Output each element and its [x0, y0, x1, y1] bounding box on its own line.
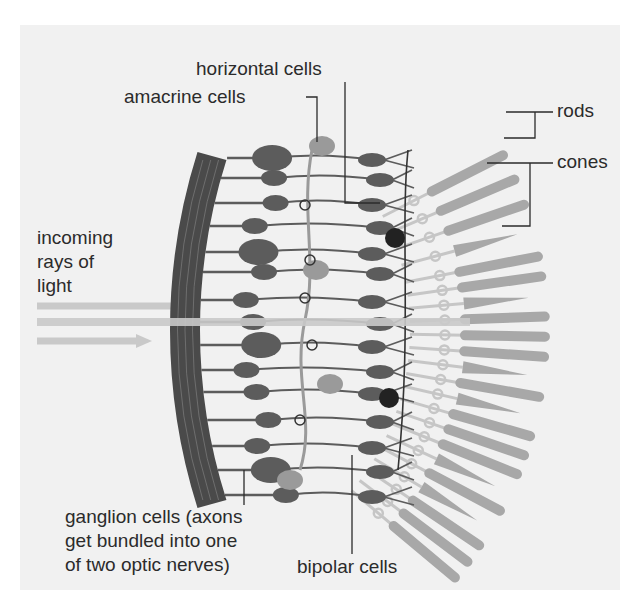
amacrine-cell: [277, 470, 303, 490]
bipolar-dendrite: [384, 150, 414, 168]
bipolar-cell: [366, 365, 394, 379]
label-ganglion-line2: get bundled into one: [65, 529, 242, 553]
label-horizontal-cells: horizontal cells: [196, 57, 322, 81]
leader-amacrine-cells: [306, 97, 317, 142]
ganglion-cell: [261, 170, 287, 186]
bipolar-dendrite: [392, 170, 414, 188]
amacrine-process: [300, 150, 312, 470]
cone-cell: [408, 360, 527, 375]
synapse-fiber: [256, 389, 372, 394]
rod-cell: [409, 345, 544, 356]
ganglion-cell: [255, 412, 281, 428]
synapse-fiber: [246, 367, 380, 372]
ganglion-cell: [252, 145, 292, 171]
bipolar-cell: [358, 340, 386, 354]
leader-rods: [504, 112, 553, 138]
ganglion-cell: [233, 362, 259, 378]
retina-wall: [170, 152, 226, 508]
horizontal-cell: [379, 388, 399, 408]
bipolar-cell: [366, 267, 394, 281]
ganglion-cell: [238, 239, 278, 265]
label-incoming-light: incoming rays of light: [37, 226, 113, 298]
synapse-fiber: [257, 443, 372, 448]
label-rods: rods: [557, 99, 594, 123]
synapse-fiber: [274, 175, 380, 180]
synapse-ring: [295, 415, 305, 425]
bipolar-dendrite: [392, 362, 414, 380]
amacrine-cell: [309, 136, 335, 156]
ganglion-cell: [263, 195, 289, 211]
bipolar-cell: [358, 295, 386, 309]
light-ray: [37, 338, 138, 345]
arrowhead-icon: [136, 334, 152, 348]
label-bipolar-cells: bipolar cells: [297, 555, 397, 579]
bipolar-cell: [358, 153, 386, 167]
rod-cell: [406, 373, 539, 396]
bipolar-cell: [366, 415, 394, 429]
cone-cell: [409, 297, 529, 309]
light-ray: [37, 303, 181, 310]
horizontal-cell: [385, 228, 405, 248]
label-ganglion-line1: ganglion cells (axons: [65, 505, 242, 529]
label-ganglion-line3: of two optic nerves): [65, 553, 242, 577]
central-light-ray: [37, 318, 470, 326]
ganglion-cell: [251, 264, 277, 280]
label-incoming-light-line3: light: [37, 274, 113, 298]
ganglion-cell: [244, 438, 270, 454]
bipolar-cell: [358, 441, 386, 455]
ganglion-cell: [241, 332, 281, 358]
label-ganglion-cells: ganglion cells (axons get bundled into o…: [65, 505, 242, 577]
synapse-fiber: [268, 417, 380, 422]
bipolar-cell: [358, 198, 386, 212]
rod-cell: [410, 330, 545, 339]
ganglion-cell: [242, 218, 268, 234]
label-incoming-light-line1: incoming: [37, 226, 113, 250]
amacrine-cell: [317, 374, 343, 394]
bipolar-dendrite: [392, 264, 414, 282]
synapse-fiber: [255, 223, 380, 228]
bipolar-cell: [366, 465, 394, 479]
light-ray: [37, 318, 470, 326]
bipolar-cell: [366, 173, 394, 187]
ganglion-cell: [233, 292, 259, 308]
label-amacrine-cells: amacrine cells: [124, 85, 245, 109]
label-incoming-light-line2: rays of: [37, 250, 113, 274]
retina-wall-band: [170, 152, 226, 508]
ganglion-cell: [243, 384, 269, 400]
bipolar-cell: [358, 247, 386, 261]
bipolar-cell: [358, 490, 386, 504]
label-cones: cones: [557, 150, 608, 174]
